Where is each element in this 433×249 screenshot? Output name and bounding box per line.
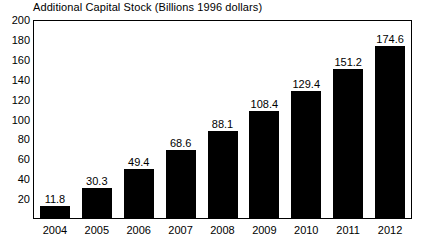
bar-value-label: 49.4	[128, 156, 149, 168]
x-axis-tick-label: 2010	[285, 224, 327, 236]
bar-chart: Additional Capital Stock (Billions 1996 …	[0, 0, 433, 249]
y-axis-tick-label: 80	[0, 133, 30, 145]
bar-rect[interactable]	[40, 206, 70, 218]
bar[interactable]: 30.3	[82, 21, 112, 218]
bar[interactable]: 151.2	[333, 21, 363, 218]
bar[interactable]: 49.4	[124, 21, 154, 218]
bar-value-label: 151.2	[334, 56, 362, 68]
bar[interactable]: 88.1	[208, 21, 238, 218]
bar-rect[interactable]	[82, 188, 112, 218]
bar-value-label: 11.8	[45, 193, 66, 205]
y-axis-tick-label: 60	[0, 153, 30, 165]
bar-rect[interactable]	[208, 131, 238, 218]
y-axis-tick-label: 100	[0, 114, 30, 126]
y-axis-tick-label: 140	[0, 74, 30, 86]
x-axis-tick-label: 2005	[76, 224, 118, 236]
bar[interactable]: 68.6	[166, 21, 196, 218]
x-axis-tick-label: 2008	[202, 224, 244, 236]
x-axis-tick-label: 2004	[34, 224, 76, 236]
y-axis-tick-label: 40	[0, 173, 30, 185]
bar-rect[interactable]	[166, 150, 196, 218]
x-axis-tick-label: 2011	[327, 224, 369, 236]
bar[interactable]: 174.6	[375, 21, 405, 218]
bar[interactable]: 108.4	[249, 21, 279, 218]
bars-container: 11.830.349.468.688.1108.4129.4151.2174.6	[34, 21, 411, 218]
bar-value-label: 88.1	[212, 118, 233, 130]
bar-value-label: 108.4	[251, 98, 279, 110]
bar-rect[interactable]	[249, 111, 279, 218]
x-axis-tick-label: 2006	[118, 224, 160, 236]
x-axis-tick-label: 2007	[160, 224, 202, 236]
bar-rect[interactable]	[333, 69, 363, 218]
bar-value-label: 68.6	[170, 137, 191, 149]
y-axis-tick-label: 120	[0, 94, 30, 106]
bar-rect[interactable]	[375, 46, 405, 218]
bar[interactable]: 129.4	[291, 21, 321, 218]
chart-title: Additional Capital Stock (Billions 1996 …	[33, 1, 262, 13]
bar-value-label: 30.3	[86, 175, 107, 187]
y-axis-tick-label: 160	[0, 54, 30, 66]
y-axis-tick-label: 180	[0, 34, 30, 46]
bar-rect[interactable]	[291, 91, 321, 218]
y-axis-tick-label: 20	[0, 193, 30, 205]
x-axis-tick-label: 2009	[243, 224, 285, 236]
y-axis-tick-label: 200	[0, 14, 30, 26]
y-axis-tick-labels: 20406080100120140160180200	[0, 20, 30, 219]
bar-value-label: 174.6	[376, 33, 404, 45]
bar-value-label: 129.4	[293, 78, 321, 90]
x-axis-tick-labels: 200420052006200720082009201020112012	[34, 224, 411, 240]
x-axis-tick-label: 2012	[369, 224, 411, 236]
bar[interactable]: 11.8	[40, 21, 70, 218]
bar-rect[interactable]	[124, 169, 154, 218]
